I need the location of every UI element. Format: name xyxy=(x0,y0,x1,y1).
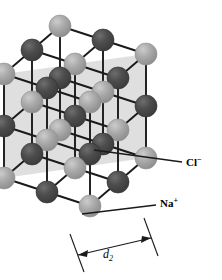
ion-chloride xyxy=(92,29,114,51)
lattice-diagram: Cl− Na+ d2 xyxy=(0,0,222,280)
ion-sodium xyxy=(21,91,43,113)
ion-chloride xyxy=(21,39,43,61)
ion-chloride xyxy=(135,95,157,117)
ion-sodium xyxy=(135,43,157,65)
ion-chloride xyxy=(36,181,58,203)
legend-sodium-charge: + xyxy=(173,196,178,205)
ion-sodium xyxy=(49,15,71,37)
legend-chloride-charge: − xyxy=(197,155,202,164)
ion-chloride xyxy=(21,143,43,165)
ion-chloride xyxy=(107,171,129,193)
ion-sodium xyxy=(64,157,86,179)
dimension-label-subscript: 2 xyxy=(109,254,113,263)
legend-chloride-symbol: Cl xyxy=(186,156,197,168)
nacl-lattice-figure: Cl− Na+ d2 xyxy=(0,0,222,280)
legend-sodium-symbol: Na xyxy=(160,197,174,209)
